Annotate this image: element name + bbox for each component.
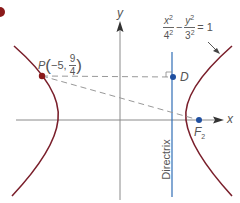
point-p-close-paren: )	[76, 57, 82, 74]
point-p-x: −5,	[51, 60, 67, 71]
hyperbola-equation: x2 42 − y2 32 = 1	[163, 14, 213, 42]
eq-x-exp: 2	[169, 14, 173, 21]
hyperbola-right-branch	[186, 46, 232, 196]
focus-f2-label: F2	[194, 126, 205, 140]
equation-y-fraction: y2 32	[184, 14, 195, 42]
point-p-y-fraction: 9 4	[69, 54, 77, 77]
focus-subscript: 2	[201, 133, 205, 140]
eq-equals: = 1	[197, 22, 213, 33]
equation-pointer-arrow-icon	[213, 48, 220, 54]
eq-minus: −	[176, 22, 182, 33]
point-p-y-num: 9	[69, 54, 77, 66]
eq-y-den-exp: 2	[191, 29, 195, 36]
point-p-y-den: 4	[70, 66, 76, 77]
focus-f2-marker	[196, 117, 202, 123]
eq-y-exp: 2	[190, 14, 194, 21]
equation-x-fraction: x2 42	[163, 14, 174, 42]
point-p-name: P	[38, 60, 45, 71]
eq-x-den-exp: 2	[169, 29, 173, 36]
directrix-label: Directrix	[161, 138, 172, 182]
y-axis-label: y	[117, 7, 123, 19]
point-p-label: P ( −5, 9 4 )	[38, 54, 82, 77]
corner-mark-icon	[0, 7, 5, 17]
point-d-label: D	[180, 71, 189, 83]
point-d-marker	[170, 74, 176, 80]
x-axis-label: x	[227, 113, 233, 125]
